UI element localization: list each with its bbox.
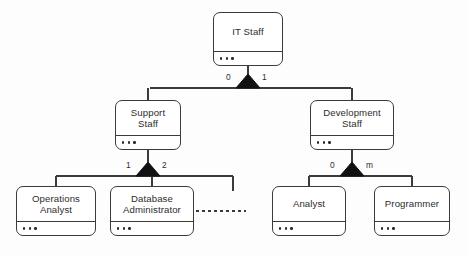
class-box-operations-analyst[interactable]: Operations Analyst bbox=[16, 186, 96, 236]
ellipsis-dot-icon bbox=[290, 227, 292, 229]
cardinality-right-gen-development-staff: m bbox=[366, 160, 373, 170]
ellipsis-dot-icon bbox=[117, 227, 119, 229]
class-name-it-staff: IT Staff bbox=[214, 13, 282, 51]
class-members-analyst bbox=[273, 221, 345, 235]
ellipsis-dot-icon bbox=[226, 57, 228, 59]
cardinality-left-gen-development-staff: 0 bbox=[330, 160, 335, 170]
class-box-development-staff[interactable]: Development Staff bbox=[310, 100, 394, 150]
uml-diagram-canvas: IT StaffSupport StaffDevelopment StaffOp… bbox=[0, 0, 468, 256]
ellipsis-dot-icon bbox=[220, 57, 222, 59]
cardinality-right-gen-it-staff: 1 bbox=[262, 72, 267, 82]
class-box-database-administrator[interactable]: Database Administrator bbox=[110, 186, 194, 236]
ellipsis-dot-icon bbox=[285, 227, 287, 229]
ellipsis-dot-icon bbox=[279, 227, 281, 229]
ellipsis-dot-icon bbox=[323, 141, 325, 143]
class-box-support-staff[interactable]: Support Staff bbox=[115, 100, 181, 150]
class-members-operations-analyst bbox=[17, 221, 95, 235]
generalization-triangle-gen-development-staff bbox=[340, 162, 364, 176]
ellipsis-dot-icon bbox=[231, 57, 233, 59]
ellipsis-dot-icon bbox=[123, 227, 125, 229]
generalization-triangle-gen-it-staff bbox=[236, 74, 260, 88]
ellipsis-dot-icon bbox=[317, 141, 319, 143]
cardinality-left-gen-support-staff: 1 bbox=[126, 160, 131, 170]
class-box-programmer[interactable]: Programmer bbox=[374, 186, 450, 236]
ellipsis-dot-icon bbox=[34, 227, 36, 229]
class-name-operations-analyst: Operations Analyst bbox=[17, 187, 95, 221]
ellipsis-dot-icon bbox=[392, 227, 394, 229]
ellipsis-dot-icon bbox=[381, 227, 383, 229]
ellipsis-dot-icon bbox=[122, 141, 124, 143]
class-members-it-staff bbox=[214, 51, 282, 65]
class-box-analyst[interactable]: Analyst bbox=[272, 186, 346, 236]
class-members-support-staff bbox=[116, 135, 180, 149]
ellipsis-dot-icon bbox=[328, 141, 330, 143]
ellipsis-dot-icon bbox=[128, 141, 130, 143]
class-members-programmer bbox=[375, 221, 449, 235]
cardinality-left-gen-it-staff: 0 bbox=[226, 72, 231, 82]
generalization-triangle-gen-support-staff bbox=[136, 162, 160, 176]
ellipsis-dot-icon bbox=[387, 227, 389, 229]
class-members-development-staff bbox=[311, 135, 393, 149]
class-name-analyst: Analyst bbox=[273, 187, 345, 221]
class-box-it-staff[interactable]: IT Staff bbox=[213, 12, 283, 66]
ellipsis-dot-icon bbox=[133, 141, 135, 143]
ellipsis-dot-icon bbox=[23, 227, 25, 229]
ellipsis-dot-icon bbox=[128, 227, 130, 229]
class-name-programmer: Programmer bbox=[375, 187, 449, 221]
class-name-support-staff: Support Staff bbox=[116, 101, 180, 135]
class-name-development-staff: Development Staff bbox=[311, 101, 393, 135]
class-members-database-administrator bbox=[111, 221, 193, 235]
ellipsis-dot-icon bbox=[29, 227, 31, 229]
cardinality-right-gen-support-staff: 2 bbox=[162, 160, 167, 170]
class-name-database-administrator: Database Administrator bbox=[111, 187, 193, 221]
